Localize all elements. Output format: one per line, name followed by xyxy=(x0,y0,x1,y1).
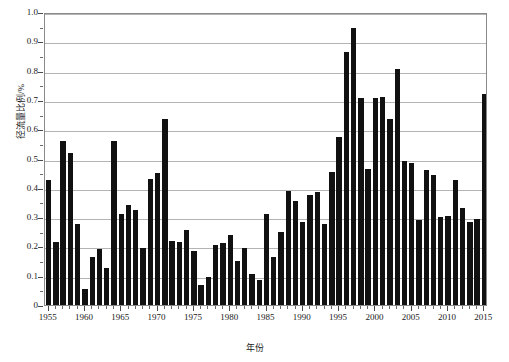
bar xyxy=(104,268,109,305)
x-tick-minor xyxy=(324,306,325,309)
x-tick-minor xyxy=(113,306,114,309)
x-tick-minor xyxy=(142,306,143,309)
bar xyxy=(191,251,196,305)
bar xyxy=(264,214,269,305)
bar xyxy=(126,205,131,305)
y-tick-label: 1.0 xyxy=(0,8,38,17)
x-tick-minor xyxy=(353,306,354,309)
x-tick-minor xyxy=(135,306,136,309)
x-tick-label: 1985 xyxy=(246,313,286,322)
x-tick-minor xyxy=(207,306,208,309)
bar xyxy=(148,179,153,305)
y-tick-mark xyxy=(38,218,43,219)
bar xyxy=(438,217,443,305)
y-tick-label: 0.3 xyxy=(0,213,38,222)
x-tick-mark xyxy=(120,306,121,311)
x-tick-minor xyxy=(418,306,419,309)
bar xyxy=(329,172,334,305)
x-tick-mark xyxy=(411,306,412,311)
x-tick-minor xyxy=(345,306,346,309)
x-tick-label: 1965 xyxy=(100,313,140,322)
y-tick-mark xyxy=(38,13,43,14)
x-tick-minor xyxy=(295,306,296,309)
y-tick-minor xyxy=(40,28,43,29)
bar xyxy=(46,180,51,305)
bar xyxy=(68,153,73,305)
x-tick-mark xyxy=(157,306,158,311)
x-tick-minor xyxy=(258,306,259,309)
x-tick-mark xyxy=(193,306,194,311)
bar xyxy=(119,214,124,305)
bar xyxy=(300,222,305,306)
bar xyxy=(82,289,87,305)
y-tick-label: 0.2 xyxy=(0,242,38,251)
x-tick-minor xyxy=(382,306,383,309)
bar xyxy=(373,98,378,305)
x-tick-minor xyxy=(128,306,129,309)
bar xyxy=(409,163,414,305)
bar xyxy=(322,224,327,305)
bar xyxy=(97,249,102,305)
bar xyxy=(111,141,116,305)
bar xyxy=(358,98,363,305)
y-tick-mark xyxy=(38,306,43,307)
plot-area xyxy=(44,13,487,306)
y-tick-minor xyxy=(40,57,43,58)
y-tick-mark xyxy=(38,189,43,190)
bar xyxy=(220,243,225,305)
bar xyxy=(213,245,218,305)
bar xyxy=(140,248,145,305)
gridline xyxy=(45,131,486,132)
bar xyxy=(198,285,203,306)
bar xyxy=(402,161,407,305)
x-tick-minor xyxy=(425,306,426,309)
bar xyxy=(431,175,436,305)
y-tick-minor xyxy=(40,174,43,175)
bar xyxy=(315,192,320,305)
y-tick-minor xyxy=(40,291,43,292)
x-tick-label: 1970 xyxy=(137,313,177,322)
x-tick-minor xyxy=(433,306,434,309)
y-tick-label: 0.6 xyxy=(0,125,38,134)
gridline xyxy=(45,43,486,44)
x-tick-minor xyxy=(55,306,56,309)
x-tick-minor xyxy=(454,306,455,309)
bar xyxy=(169,241,174,305)
bar xyxy=(336,137,341,305)
y-tick-mark xyxy=(38,72,43,73)
bar xyxy=(293,201,298,305)
x-tick-minor xyxy=(316,306,317,309)
bar xyxy=(286,191,291,305)
x-tick-mark xyxy=(302,306,303,311)
bar xyxy=(228,235,233,305)
x-tick-minor xyxy=(215,306,216,309)
x-tick-minor xyxy=(360,306,361,309)
x-tick-mark xyxy=(48,306,49,311)
bar xyxy=(387,119,392,305)
bar xyxy=(395,69,400,305)
x-tick-minor xyxy=(186,306,187,309)
x-tick-minor xyxy=(91,306,92,309)
x-tick-minor xyxy=(251,306,252,309)
bar xyxy=(307,195,312,305)
x-tick-minor xyxy=(62,306,63,309)
y-tick-mark xyxy=(38,277,43,278)
x-tick-mark xyxy=(84,306,85,311)
x-tick-label: 2015 xyxy=(463,313,503,322)
x-tick-label: 2010 xyxy=(427,313,467,322)
x-tick-mark xyxy=(266,306,267,311)
x-tick-label: 2000 xyxy=(354,313,394,322)
x-tick-minor xyxy=(77,306,78,309)
bar xyxy=(53,242,58,305)
y-tick-label: 0.9 xyxy=(0,37,38,46)
x-tick-minor xyxy=(106,306,107,309)
y-tick-mark xyxy=(38,130,43,131)
x-tick-mark xyxy=(338,306,339,311)
x-tick-label: 1975 xyxy=(173,313,213,322)
x-tick-minor xyxy=(280,306,281,309)
x-tick-mark xyxy=(374,306,375,311)
x-tick-mark xyxy=(229,306,230,311)
y-tick-label: 0.8 xyxy=(0,67,38,76)
x-tick-minor xyxy=(396,306,397,309)
bar xyxy=(467,222,472,306)
